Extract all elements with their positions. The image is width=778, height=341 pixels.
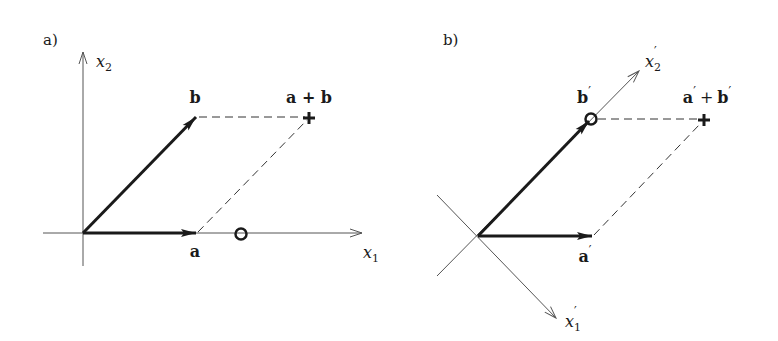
vector-a-label: a [190, 242, 200, 261]
dashed-line-a-to-sum [198, 120, 307, 232]
x1-prime-axis [437, 195, 556, 318]
sum-label: a + b [286, 88, 332, 107]
vector-b-label: b [189, 88, 200, 107]
figure: a) x2 x1 b a + b a b) x2′ x1′ [0, 0, 778, 341]
sum-prime-label: a′+b′ [683, 85, 732, 107]
panel-b-label: b) [443, 31, 458, 49]
circle-marker [236, 229, 247, 240]
vector-b-prime [478, 121, 589, 236]
x1-prime-axis-label: x1′ [565, 305, 581, 334]
plus-marker-sum-prime [698, 114, 710, 126]
panel-b: b) x2′ x1′ b′ a′+b′ a′ [437, 31, 731, 334]
x2-prime-axis-label: x2′ [645, 45, 661, 74]
panel-a-label: a) [43, 31, 58, 49]
x2-axis-label: x2 [96, 52, 112, 74]
panel-a: a) x2 x1 b a + b a [43, 31, 379, 266]
dashed-line-a-prime-to-sum [594, 124, 700, 235]
x1-axis-label: x1 [363, 243, 379, 265]
vector-b-prime-label: b′ [577, 85, 591, 107]
plus-marker-sum [303, 112, 315, 124]
vector-a-prime-label: a′ [578, 244, 591, 266]
circle-marker-b-prime [586, 114, 597, 125]
vector-b [83, 117, 196, 233]
